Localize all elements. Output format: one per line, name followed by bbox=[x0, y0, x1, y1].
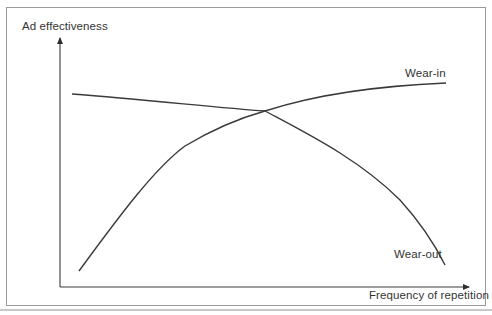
wear-out-label: Wear-out bbox=[394, 248, 442, 260]
x-axis-label: Frequency of repetition bbox=[369, 289, 489, 301]
frame-bottom-edge bbox=[0, 309, 492, 311]
wear-in-label: Wear-in bbox=[405, 67, 446, 79]
y-axis-label: Ad effectiveness bbox=[22, 20, 108, 32]
wear-out-curve bbox=[72, 94, 445, 265]
wear-in-curve bbox=[79, 83, 446, 271]
diagram-canvas bbox=[0, 0, 492, 315]
